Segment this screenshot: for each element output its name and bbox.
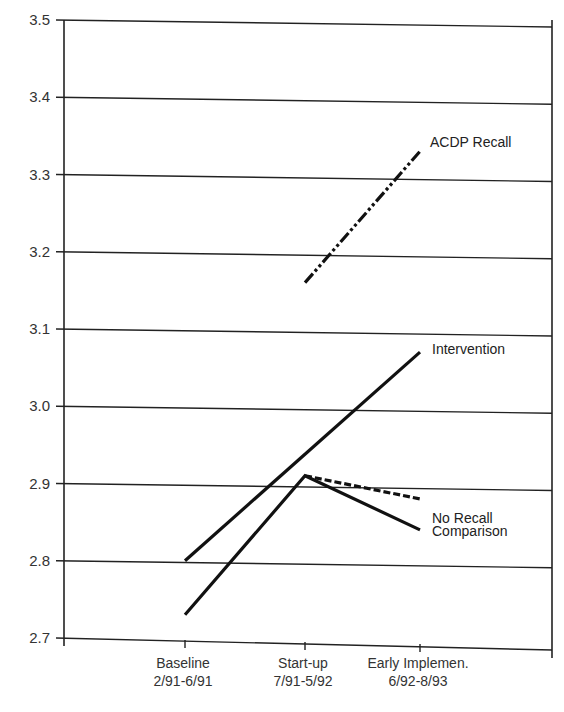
data-series <box>185 151 420 615</box>
gridline <box>56 252 552 259</box>
x-tick-sublabel: 6/92-8/93 <box>388 673 447 689</box>
x-tick-label: Early Implemen. <box>367 655 468 671</box>
gridline <box>56 329 552 336</box>
y-tick-label: 3.3 <box>29 166 50 183</box>
y-axis-ticks: 3.53.43.33.23.13.02.92.82.7 <box>29 11 50 646</box>
line-chart: 3.53.43.33.23.13.02.92.82.7 Baseline2/91… <box>0 0 564 712</box>
series-labels: ACDP RecallInterventionNo RecallComparis… <box>430 134 511 539</box>
y-tick-label: 3.5 <box>29 11 50 28</box>
y-tick-label: 2.8 <box>29 552 50 569</box>
y-tick-label: 3.0 <box>29 397 50 414</box>
gridline <box>56 561 552 568</box>
series-acdp-recall <box>305 151 420 282</box>
x-tick-label: Start-up <box>278 655 328 671</box>
series-comparison <box>185 476 420 615</box>
series-label: Comparison <box>432 523 507 539</box>
x-tick-sublabel: 2/91-6/91 <box>153 673 212 689</box>
gridline <box>56 406 552 413</box>
x-tick-sublabel: 7/91-5/92 <box>273 673 332 689</box>
y-tick-label: 3.1 <box>29 320 50 337</box>
gridline <box>56 484 552 491</box>
gridline <box>56 175 552 182</box>
series-intervention <box>185 352 420 561</box>
x-tick-label: Baseline <box>156 655 210 671</box>
y-tick-label: 2.9 <box>29 475 50 492</box>
series-label: ACDP Recall <box>430 134 511 150</box>
gridline <box>56 97 552 104</box>
series-label: Intervention <box>432 341 505 357</box>
gridline <box>56 638 552 650</box>
gridlines <box>56 20 552 658</box>
y-tick-label: 2.7 <box>29 629 50 646</box>
y-tick-label: 3.2 <box>29 243 50 260</box>
y-tick-label: 3.4 <box>29 88 50 105</box>
gridline <box>56 20 552 27</box>
